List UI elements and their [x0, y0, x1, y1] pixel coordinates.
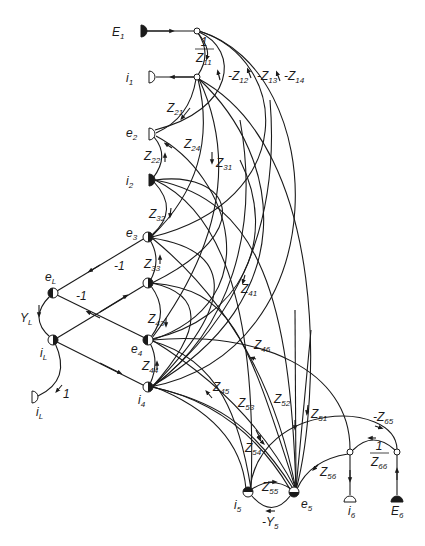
node-labels: E1i1e2i2e3eLiLe4i4iLi5e5i6E6 — [36, 25, 404, 520]
edge-label: 1 — [63, 387, 70, 401]
svg-text:1: 1 — [201, 35, 208, 49]
edge-label: Z43 — [147, 312, 165, 328]
edge-label: Z24 — [183, 137, 201, 153]
node-iL — [48, 335, 58, 345]
edge-label: -Z65 — [373, 410, 394, 426]
node-label-E1: E1 — [112, 25, 124, 41]
edge-label: -1 — [114, 259, 125, 273]
node-e2 — [149, 128, 155, 140]
node-label-e4: e4 — [131, 342, 143, 358]
node-label-e2: e2 — [126, 126, 138, 142]
node-label-eL: eL — [45, 270, 56, 286]
node-label-E6: E6 — [391, 504, 404, 520]
edge-label: Z56 — [319, 465, 337, 481]
node-eL — [48, 288, 58, 298]
edge-label: -Z12 — [228, 69, 249, 85]
node-j2 — [194, 74, 200, 80]
node-label-i1: i1 — [126, 71, 133, 87]
edge-label: -Z13 — [257, 69, 278, 85]
svg-text:1: 1 — [376, 439, 383, 453]
node-E6 — [391, 496, 403, 502]
edge-label: Z22 — [143, 149, 161, 165]
node-e3 — [143, 232, 153, 242]
svg-text:Z66: Z66 — [370, 455, 388, 471]
node-j6 — [347, 449, 353, 455]
edge-label: -Y5 — [262, 515, 279, 531]
edge-label: Z33 — [143, 257, 161, 273]
node-i1 — [149, 71, 155, 83]
node-i5 — [243, 487, 253, 497]
nodes — [32, 25, 403, 502]
edge-label: -1 — [76, 289, 87, 303]
node-j7 — [394, 449, 400, 455]
node-label-e3: e3 — [126, 226, 138, 242]
edge-label: Z21 — [166, 101, 183, 117]
node-label-e5: e5 — [301, 497, 313, 513]
edge-label: Z53 — [237, 396, 255, 412]
edge-label: Z44 — [141, 359, 159, 375]
node-j1 — [194, 28, 200, 34]
edge-label: Z41 — [240, 282, 257, 298]
node-label-i2: i2 — [126, 174, 134, 190]
signal-flow-graph: 1Z11-Z12-Z13-Z14Z21Z24Z22Z31Z32Z33-1-1YL… — [0, 0, 425, 546]
node-e5 — [289, 487, 299, 497]
node-E1 — [141, 25, 147, 37]
edges — [38, 31, 397, 511]
node-i4 — [143, 382, 153, 392]
svg-text:Z11: Z11 — [195, 51, 212, 67]
node-label-i6: i6 — [348, 504, 356, 520]
node-label-i4: i4 — [138, 393, 146, 409]
node-label-iL: iL — [40, 346, 47, 362]
edge-label: YL — [20, 311, 32, 327]
node-label-i5: i5 — [234, 498, 242, 514]
edge-label: Z51 — [310, 407, 327, 423]
node-i6 — [344, 496, 356, 502]
edge-label: Z46 — [253, 338, 271, 354]
edge-label: Z52 — [273, 392, 291, 408]
edge-label: Z45 — [212, 380, 230, 396]
node-label-iLout: iL — [36, 405, 43, 421]
edge-label: -Z14 — [284, 69, 305, 85]
edge-label: Z32 — [148, 207, 166, 223]
node-iLout — [32, 391, 38, 403]
node-e4 — [143, 335, 153, 345]
edge-label: Z31 — [215, 156, 232, 172]
node-n3b — [143, 278, 153, 288]
